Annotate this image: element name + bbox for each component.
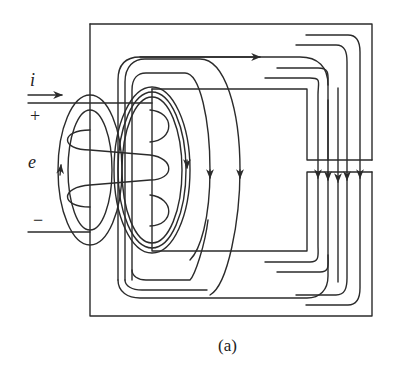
fringing-flux <box>265 35 360 305</box>
plus-sign: + <box>30 106 40 126</box>
minus-sign: − <box>33 210 43 230</box>
magnetic-circuit-diagram: i + e − (a) <box>0 0 396 378</box>
figure-caption: (a) <box>218 336 237 355</box>
current-label: i <box>30 70 35 90</box>
emf-label: e <box>28 152 36 172</box>
